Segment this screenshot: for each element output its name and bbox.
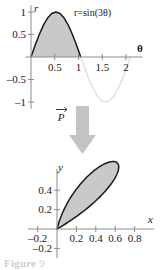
down-arrow-icon — [69, 106, 96, 154]
svg-text:–0.2: –0.2 — [32, 242, 52, 254]
figure-caption: Figure 9 — [0, 256, 165, 270]
svg-text:0.6: 0.6 — [108, 232, 122, 244]
svg-text:0.2: 0.2 — [38, 203, 52, 215]
svg-text:0.5: 0.5 — [12, 28, 26, 40]
figure-caption-number: 9 — [39, 257, 45, 269]
svg-text:0.8: 0.8 — [128, 232, 142, 244]
svg-text:0.5: 0.5 — [48, 61, 62, 73]
top-chart-panel: 0.511.52 10.5–0.5–1 r θ r=sin(3θ) — [0, 0, 165, 120]
shaded-hump-region — [31, 12, 81, 57]
theta-axis-label: θ — [137, 42, 143, 54]
x-axis-label: x — [147, 213, 153, 225]
theta-axis-tick-labels: 0.511.52 — [48, 61, 129, 73]
svg-text:1: 1 — [76, 61, 82, 73]
svg-text:0.2: 0.2 — [70, 232, 84, 244]
svg-text:1: 1 — [21, 6, 27, 18]
y-axis-tick-labels: 0.40.2–0.2 — [32, 184, 53, 254]
r-axis-tick-labels: 10.5–0.5–1 — [6, 6, 27, 108]
figure-caption-label: Figure — [4, 257, 36, 269]
bottom-chart-panel: –0.20.20.40.60.8 0.40.2–0.2 y x — [0, 155, 165, 255]
polar-petal-transformation-figure: 0.511.52 10.5–0.5–1 r θ r=sin(3θ) P –0.2… — [0, 0, 165, 270]
vector-p-label: P — [57, 111, 65, 123]
top-chart-svg: 0.511.52 10.5–0.5–1 r θ r=sin(3θ) — [0, 0, 165, 120]
y-axis-label: y — [57, 161, 63, 173]
svg-text:1.5: 1.5 — [95, 61, 109, 73]
svg-text:2: 2 — [123, 61, 129, 73]
bottom-chart-svg: –0.20.20.40.60.8 0.40.2–0.2 y x — [0, 155, 165, 255]
transformation-arrow-panel: P — [0, 104, 165, 159]
arrow-svg: P — [0, 104, 165, 159]
svg-text:0.4: 0.4 — [38, 184, 52, 196]
petal-region — [57, 162, 119, 229]
r-axis-label: r — [34, 2, 39, 14]
svg-text:–0.5: –0.5 — [6, 73, 27, 85]
svg-text:0.4: 0.4 — [89, 232, 103, 244]
equation-annotation: r=sin(3θ) — [74, 7, 111, 19]
